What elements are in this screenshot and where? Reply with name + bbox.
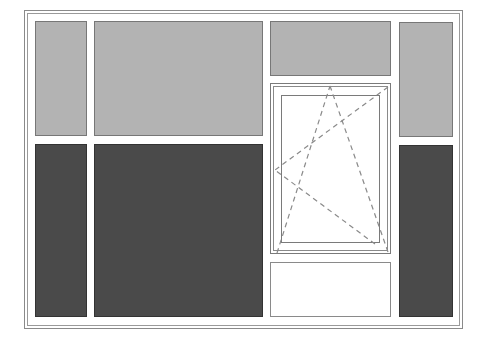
opening-direction-lines (0, 0, 488, 348)
panel-bottom-middle-blank (270, 262, 391, 317)
